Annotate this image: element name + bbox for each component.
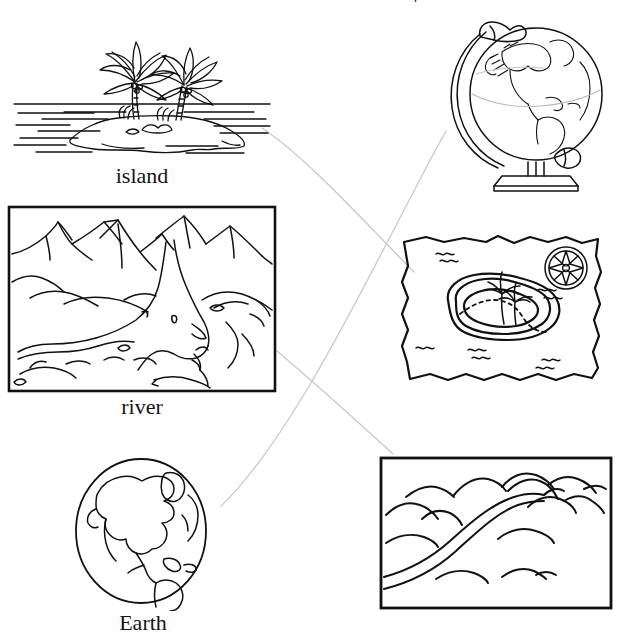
island-with-palm-trees-icon bbox=[8, 12, 276, 162]
item-island[interactable]: island bbox=[8, 12, 276, 187]
item-desk-globe[interactable] bbox=[440, 12, 616, 192]
label-island: island bbox=[8, 164, 276, 187]
item-river-valley[interactable] bbox=[378, 455, 614, 619]
item-earth[interactable]: Earth bbox=[58, 455, 228, 634]
connector-river-to-river-valley[interactable] bbox=[277, 351, 393, 454]
label-river: river bbox=[6, 395, 278, 418]
worksheet-title: Draw a line to match each word with its … bbox=[0, 0, 623, 2]
mountain-river-scene-icon bbox=[6, 204, 278, 394]
treasure-map-with-island-icon bbox=[396, 228, 606, 388]
connector-island-to-treasure-map[interactable] bbox=[262, 128, 414, 272]
worksheet-page: Draw a line to match each word with its … bbox=[0, 0, 623, 639]
label-earth: Earth bbox=[58, 611, 228, 634]
desk-globe-on-stand-icon bbox=[440, 12, 616, 192]
earth-globe-icon bbox=[58, 455, 228, 611]
river-through-hills-icon bbox=[378, 455, 614, 619]
item-river[interactable]: river bbox=[6, 204, 278, 418]
item-treasure-map[interactable] bbox=[396, 228, 606, 388]
